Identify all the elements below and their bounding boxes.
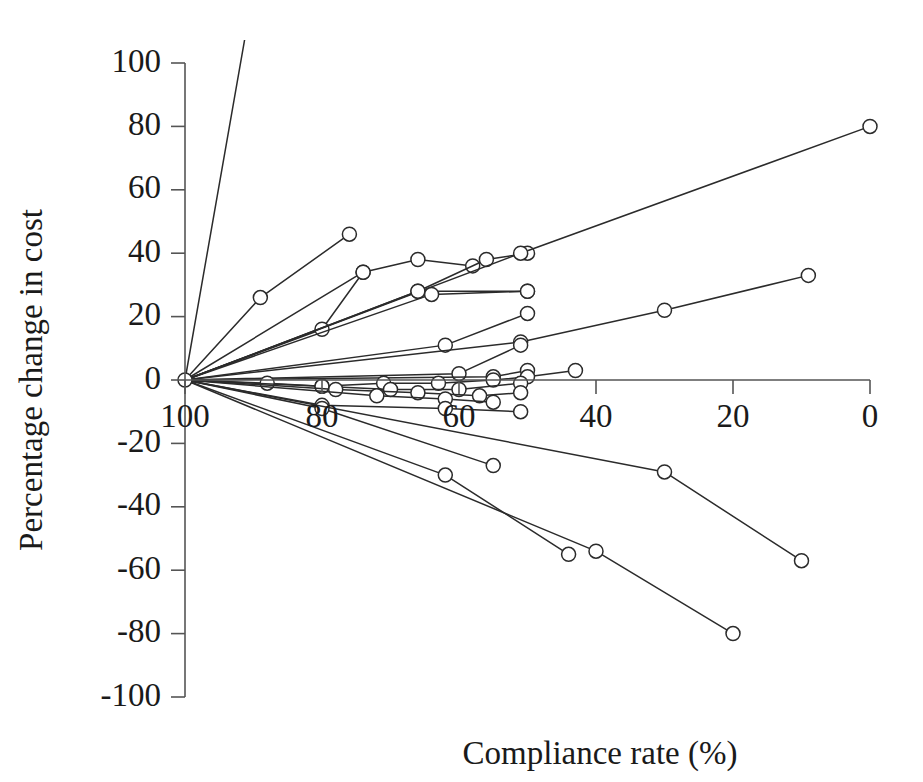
chart-container: -100-80-60-40-20020406080100100806040200… (0, 0, 923, 782)
y-axis-tick-label: 100 (112, 43, 162, 79)
series-polyline (185, 0, 267, 380)
data-point-marker (384, 383, 398, 397)
data-point-marker (726, 627, 740, 641)
y-axis-tick-label: -20 (117, 423, 161, 459)
data-point-marker (514, 405, 528, 419)
data-point-marker (342, 227, 356, 241)
data-point-marker (514, 246, 528, 260)
x-axis-tick-label: 60 (443, 398, 476, 434)
y-axis-tick-label: -60 (117, 550, 161, 586)
data-series (185, 284, 535, 380)
y-axis-tick-label: 60 (128, 169, 161, 205)
data-point-marker (425, 287, 439, 301)
data-point-marker (658, 465, 672, 479)
y-axis-tick-label: 20 (128, 296, 161, 332)
data-point-marker (589, 544, 603, 558)
data-point-marker (658, 303, 672, 317)
data-point-marker (370, 389, 384, 403)
data-point-marker (514, 338, 528, 352)
data-point-marker (568, 363, 582, 377)
data-point-marker (438, 468, 452, 482)
data-series (185, 0, 267, 380)
data-point-marker (486, 395, 500, 409)
data-point-marker (431, 376, 445, 390)
y-axis-tick-label: -100 (101, 677, 162, 713)
y-axis-title: Percentage change in cost (13, 209, 49, 551)
y-axis-tick-label: 0 (145, 360, 162, 396)
data-point-marker (329, 383, 343, 397)
data-point-marker (411, 253, 425, 267)
y-axis-tick-label: -80 (117, 613, 161, 649)
data-point-marker (486, 459, 500, 473)
data-series (185, 284, 535, 380)
x-axis-tick-label: 100 (160, 398, 210, 434)
data-point-marker (562, 547, 576, 561)
data-point-marker (801, 268, 815, 282)
x-axis-title: Compliance rate (%) (463, 735, 738, 772)
data-series (185, 306, 535, 380)
series-polyline (185, 291, 528, 380)
x-axis-tick-label: 0 (862, 398, 879, 434)
data-point-marker (863, 119, 877, 133)
data-series (185, 227, 356, 380)
y-axis-tick-label: 80 (128, 106, 161, 142)
series-polyline (185, 234, 349, 380)
data-point-marker (521, 306, 535, 320)
x-axis-tick-label: 80 (306, 398, 339, 434)
data-point-marker (356, 265, 370, 279)
axes-layer (171, 63, 870, 697)
x-axis-tick-label: 40 (580, 398, 613, 434)
data-point-marker (411, 284, 425, 298)
y-axis-tick-label: -40 (117, 486, 161, 522)
data-point-marker (452, 367, 466, 381)
x-axis-tick-label: 20 (717, 398, 750, 434)
data-point-marker (253, 291, 267, 305)
data-point-marker (795, 554, 809, 568)
series-layer (178, 0, 877, 641)
data-point-marker (521, 284, 535, 298)
line-chart-svg: -100-80-60-40-20020406080100100806040200… (0, 0, 923, 782)
data-point-marker (514, 386, 528, 400)
y-axis-tick-label: 40 (128, 233, 161, 269)
series-polyline (185, 291, 528, 380)
